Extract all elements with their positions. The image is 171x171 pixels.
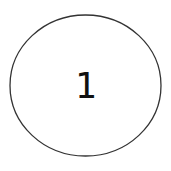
diagram-canvas: 1 — [0, 0, 171, 171]
node-label: 1 — [75, 65, 97, 106]
node-1: 1 — [10, 15, 161, 156]
